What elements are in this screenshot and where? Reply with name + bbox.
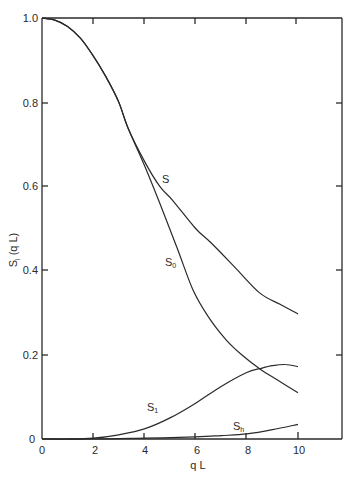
x-tick-8: 8 bbox=[245, 444, 251, 456]
y-tick-0.8: 0.8 bbox=[23, 97, 38, 109]
y-tick-0: 0 bbox=[29, 433, 35, 445]
x-tick-0: 0 bbox=[39, 444, 45, 456]
x-tick-10: 10 bbox=[293, 444, 305, 456]
y-tick-0.2: 0.2 bbox=[23, 349, 38, 361]
curve-label-S1: S1 bbox=[147, 401, 158, 414]
svg-text:Si (q L): Si (q L) bbox=[7, 233, 21, 268]
y-tick-0.6: 0.6 bbox=[23, 180, 38, 192]
y-axis-label: Si (q L) bbox=[7, 233, 21, 268]
curves bbox=[42, 18, 298, 439]
curve-label-S: S bbox=[162, 173, 169, 185]
y-tick-1.0: 1.0 bbox=[23, 12, 38, 24]
x-tick-2: 2 bbox=[92, 444, 98, 456]
curve-label-S0: S0 bbox=[165, 256, 176, 269]
x-tick-labels: 0 2 4 6 8 10 bbox=[39, 444, 305, 456]
curve-Sh bbox=[42, 424, 298, 439]
curve-S1 bbox=[42, 364, 298, 439]
plot-frame bbox=[42, 18, 342, 439]
x-tick-4: 4 bbox=[142, 444, 148, 456]
chart: 0 2 4 6 8 10 0 0.2 0.4 0.6 0.8 1.0 q L S… bbox=[0, 0, 357, 477]
x-axis-label: q L bbox=[190, 459, 205, 471]
x-tick-6: 6 bbox=[194, 444, 200, 456]
y-tick-0.4: 0.4 bbox=[23, 264, 38, 276]
curve-label-Sh: Sh bbox=[233, 420, 244, 433]
y-tick-labels: 0 0.2 0.4 0.6 0.8 1.0 bbox=[23, 12, 38, 445]
y-ticks bbox=[42, 103, 342, 355]
curve-S bbox=[42, 18, 298, 314]
curve-S0 bbox=[42, 18, 298, 393]
